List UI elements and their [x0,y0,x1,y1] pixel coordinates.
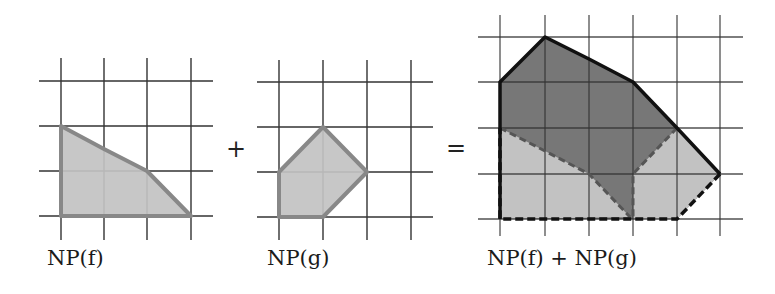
label-np-sum: NP(f) + NP(g) [487,246,637,270]
panel-np-g [257,60,433,240]
minkowski-sum-diagram [0,0,775,294]
polytope-np-g [279,127,367,217]
equals-operator: = [446,136,466,160]
label-np-f: NP(f) [47,246,104,270]
panel-np-f [39,58,213,240]
panel-np-sum [478,15,743,236]
label-np-g: NP(g) [267,246,329,270]
plus-operator: + [226,137,246,161]
